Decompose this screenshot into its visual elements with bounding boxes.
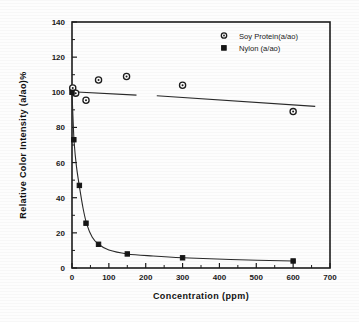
nylon-marker-square <box>180 256 184 260</box>
nylon-marker-square <box>72 138 76 142</box>
legend-entry-soy-protein: Soy Protein(a/ao) <box>221 32 298 41</box>
figure-canvas: 020406080100120140 010020030040050060070… <box>0 0 359 322</box>
y-tick-label: 140 <box>52 18 66 27</box>
marker-center-dot <box>126 75 128 77</box>
marker-center-dot <box>72 87 74 89</box>
marker-center-dot <box>75 92 77 94</box>
y-tick-label: 0 <box>61 264 66 273</box>
y-tick-label: 120 <box>52 53 66 62</box>
y-tick-label: 60 <box>56 159 65 168</box>
nylon-marker-square <box>291 259 295 263</box>
x-tick-label: 0 <box>70 273 75 282</box>
marker-center-dot <box>292 111 294 113</box>
nylon-marker-square <box>84 221 88 225</box>
x-axis-title: Concentration (ppm) <box>153 291 249 301</box>
nylon-data-points <box>70 90 296 263</box>
soy-protein-trend-line <box>72 92 315 107</box>
marker-center-dot <box>98 79 100 81</box>
legend-entry-nylon: Nylon (a/ao) <box>222 44 281 53</box>
x-tick-label: 600 <box>286 273 300 282</box>
y-tick-label: 20 <box>56 229 65 238</box>
legend-label-nylon: Nylon (a/ao) <box>239 44 281 53</box>
y-axis: 020406080100120140 <box>52 18 77 273</box>
scatter-chart: 020406080100120140 010020030040050060070… <box>0 0 359 322</box>
y-tick-label: 100 <box>52 88 66 97</box>
legend-label-soy-protein: Soy Protein(a/ao) <box>239 32 299 41</box>
chart-legend: Soy Protein(a/ao) Nylon (a/ao) <box>221 32 298 53</box>
x-tick-label: 300 <box>176 273 190 282</box>
soy-protein-marker <box>290 109 296 115</box>
y-tick-label: 80 <box>56 123 65 132</box>
soy-protein-marker <box>123 73 129 79</box>
x-tick-label: 500 <box>250 273 264 282</box>
soy-protein-marker <box>83 97 89 103</box>
x-axis: 0100200300400500600700 <box>70 263 337 282</box>
nylon-marker-square <box>77 183 81 187</box>
soy-protein-marker <box>179 82 185 88</box>
nylon-curve-path <box>72 92 293 261</box>
y-tick-label: 40 <box>56 194 65 203</box>
marker-center-dot <box>85 99 87 101</box>
nylon-marker-square <box>125 252 129 256</box>
soy-trend-segment <box>157 96 315 107</box>
nylon-marker-square <box>96 242 100 246</box>
marker-center-dot <box>182 84 184 86</box>
x-tick-label: 400 <box>213 273 227 282</box>
nylon-fit-curve <box>72 92 293 261</box>
x-tick-label: 100 <box>102 273 116 282</box>
plot-frame <box>72 22 330 268</box>
nylon-marker-square <box>70 90 74 94</box>
x-tick-label: 700 <box>323 273 337 282</box>
soy-protein-data-points <box>70 73 297 114</box>
x-tick-label: 200 <box>139 273 153 282</box>
soy-protein-marker <box>95 77 101 83</box>
soy-trend-segment <box>72 92 137 95</box>
y-axis-title: Relative Color Intensity (a/ao)% <box>18 71 28 218</box>
